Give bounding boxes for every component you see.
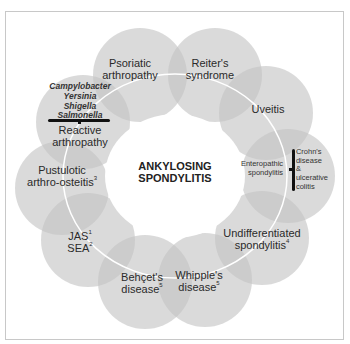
footnote-5: 5 xyxy=(159,282,162,288)
footnote-2: 2 xyxy=(89,241,92,247)
node-uveitis: Uveitis xyxy=(251,103,284,115)
node-label-line2: spondylitis xyxy=(241,169,283,178)
node-label-line2: spondylitis4 xyxy=(223,239,300,251)
node-label-line2: arthropathy xyxy=(102,69,158,81)
footnote-1: 1 xyxy=(88,229,91,235)
node-whipples-disease: Whipple's disease5 xyxy=(175,269,222,294)
reactive-causes: Campylobacter Yersinia Shigella Salmonel… xyxy=(49,82,110,121)
node-label-line2: arthropathy xyxy=(52,136,108,148)
node-label-line1: Uveitis xyxy=(251,103,284,115)
footnote-4: 4 xyxy=(286,238,289,244)
node-behcets-disease: Behçet's disease5 xyxy=(121,271,163,296)
node-enteropathic-spondylitis: Enteropathic spondylitis xyxy=(241,160,283,177)
cause-colitis: colitis xyxy=(296,183,328,192)
node-label-line1: Behçet's xyxy=(121,271,163,283)
enteropathic-causes: Crohn's disease & ulcerative colitis xyxy=(296,148,328,191)
node-label-line2: disease5 xyxy=(121,283,163,295)
node-label-line1: Pustulotic xyxy=(27,164,97,176)
node-reiters-syndrome: Reiter's syndrome xyxy=(186,57,234,82)
node-psoriatic-arthropathy: Psoriatic arthropathy xyxy=(102,57,158,82)
node-label-line2: syndrome xyxy=(186,69,234,81)
node-label-line2: arthro-osteitis3 xyxy=(27,176,97,188)
center-title-line1: ANKYLOSING xyxy=(138,160,211,172)
footnote-3: 3 xyxy=(94,175,97,181)
node-reactive-arthropathy: Reactive arthropathy xyxy=(52,124,108,149)
node-undifferentiated-spondylitis: Undifferentiated spondylitis4 xyxy=(223,227,300,252)
node-label-line2: disease5 xyxy=(175,281,222,293)
node-jas-sea: JAS1 SEA2 xyxy=(67,230,92,255)
node-label-line1: Psoriatic xyxy=(102,57,158,69)
center-title: ANKYLOSING SPONDYLITIS xyxy=(138,160,211,185)
node-label-line1: Reactive xyxy=(52,124,108,136)
center-title-line2: SPONDYLITIS xyxy=(138,172,211,184)
enteropathic-bracket-point xyxy=(289,168,293,171)
node-label-line2: SEA2 xyxy=(67,242,92,254)
node-pustulotic-arthro-osteitis: Pustulotic arthro-osteitis3 xyxy=(27,164,97,189)
footnote-5: 5 xyxy=(216,280,219,286)
node-label-line1: Reiter's xyxy=(186,57,234,69)
